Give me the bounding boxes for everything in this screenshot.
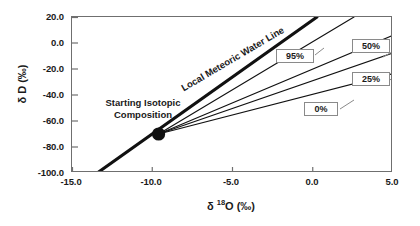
x-tick-label: 0.0 [289,176,335,187]
isotope-chart-figure: 20.0 0.0 -20.0 -40.0 -60.0 -80.0 -100.0 … [0,0,420,226]
x-tick-label: -15.0 [48,176,94,187]
leader-line-0 [340,100,354,109]
x-axis-title-rest: O (‰) [225,200,255,212]
y-tick-label: -80.0 [22,141,64,152]
x-axis-title-prefix: δ [207,200,217,212]
x-axis-ticks [73,167,393,172]
y-axis-ticks [72,18,78,173]
y-tick-label: -40.0 [22,89,64,100]
y-tick-label: -20.0 [22,63,64,74]
y-axis-title: δ D (‰) [16,36,28,132]
evaporation-line-25 [159,53,392,134]
y-axis-title-text: δ D (‰) [16,64,28,103]
y-tick-label: -60.0 [22,115,64,126]
x-tick-label: -10.0 [128,176,174,187]
leader-line-95 [315,48,324,55]
humidity-label-0: 0% [304,102,338,116]
local-meteoric-water-line [94,17,317,172]
y-tick-label: 0.0 [22,37,64,48]
humidity-label-25: 25% [352,72,390,86]
starting-composition-label: Starting Isotopic Composition [84,97,202,120]
x-tick-label: -5.0 [208,176,254,187]
x-tick-label: 5.0 [369,176,415,187]
y-tick-label: 20.0 [22,11,64,22]
plot-area: Starting Isotopic Composition Local Mete… [71,16,392,172]
x-axis-title: δ 18O (‰) [131,198,331,212]
humidity-label-50: 50% [352,39,390,53]
starting-composition-marker [152,127,165,140]
humidity-label-95: 95% [276,49,314,63]
x-axis-title-superscript: 18 [217,198,225,207]
plot-canvas [72,17,392,172]
